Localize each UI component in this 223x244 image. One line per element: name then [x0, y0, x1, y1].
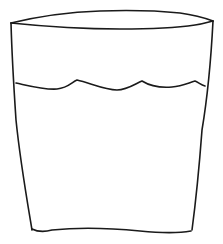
left-side-stroke	[11, 23, 32, 230]
rim-top-stroke	[11, 11, 213, 23]
glass-of-water-drawing	[0, 0, 223, 244]
bottom-stroke	[32, 228, 191, 232]
water-line-stroke	[16, 80, 205, 90]
right-side-stroke	[192, 21, 213, 230]
rim-bottom-stroke	[11, 21, 213, 29]
sketch-svg	[0, 0, 223, 244]
